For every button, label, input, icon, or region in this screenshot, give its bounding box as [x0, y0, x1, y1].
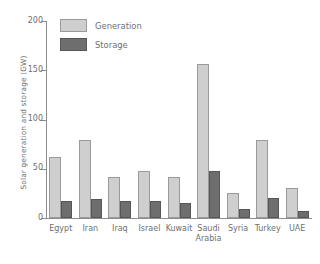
bar-group — [168, 21, 191, 218]
bar-generation — [168, 177, 180, 218]
bar-storage — [239, 209, 250, 218]
y-tick-label: 0 — [38, 213, 43, 222]
bar-group — [227, 21, 250, 218]
chart-legend: GenerationStorage — [60, 19, 142, 57]
x-axis-label: Saudi Arabia — [194, 224, 224, 243]
bar-group — [256, 21, 279, 218]
legend-swatch-storage — [60, 38, 87, 51]
x-axis-label: Syria — [223, 224, 253, 234]
x-axis-label: Kuwait — [164, 224, 194, 234]
x-axis-label: Iraq — [105, 224, 135, 234]
y-axis-title: Solar generation and storage (GW) — [19, 38, 28, 208]
bar-generation — [108, 177, 120, 218]
y-tick-label: 200 — [28, 16, 43, 25]
x-axis-label: Israel — [135, 224, 165, 234]
bar-generation — [138, 171, 150, 218]
solar-generation-storage-chart: Solar generation and storage (GW) 050100… — [0, 0, 320, 264]
y-axis-line — [46, 21, 47, 219]
x-axis-label: Iran — [76, 224, 106, 234]
bar-generation — [227, 193, 239, 218]
legend-label: Generation — [95, 21, 142, 31]
bar-storage — [61, 201, 72, 218]
bar-storage — [209, 171, 220, 218]
x-axis-label: UAE — [282, 224, 312, 234]
bar-storage — [298, 211, 309, 218]
bar-storage — [150, 201, 161, 218]
bar-storage — [120, 201, 131, 218]
legend-item-generation: Generation — [60, 19, 142, 32]
x-axis-label: Turkey — [253, 224, 283, 234]
bar-storage — [268, 198, 279, 218]
bar-generation — [79, 140, 91, 218]
y-tick-label: 100 — [28, 114, 43, 123]
bar-storage — [180, 203, 191, 218]
bar-generation — [256, 140, 268, 218]
bar-storage — [91, 199, 102, 218]
legend-label: Storage — [95, 40, 128, 50]
bar-group — [286, 21, 309, 218]
bar-generation — [286, 188, 298, 218]
legend-item-storage: Storage — [60, 38, 142, 51]
x-axis-label: Egypt — [46, 224, 76, 234]
y-tick-label: 150 — [28, 65, 43, 74]
y-tick-label: 50 — [33, 163, 43, 172]
bar-group — [197, 21, 220, 218]
bar-generation — [49, 157, 61, 218]
x-axis-line — [46, 218, 312, 219]
legend-swatch-generation — [60, 19, 87, 32]
bar-generation — [197, 64, 209, 218]
